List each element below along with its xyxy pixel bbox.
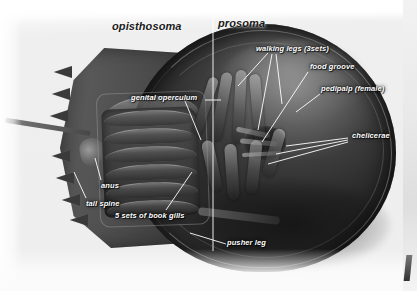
label-genital-operculum: genital operculum [131,93,197,102]
label-chelicerae: chelicerae [352,131,390,140]
label-book-gills: 5 sets of book gills [115,211,185,220]
label-pusher-leg: pusher leg [227,238,266,247]
label-prosoma: prosoma [218,17,265,29]
annotation-layer: opisthosoma prosoma walking legs (3sets)… [0,0,417,291]
leader-lines [0,0,417,291]
label-tail-spine: tail spine [86,199,120,208]
label-opisthosoma: opisthosoma [112,20,182,32]
label-walking-legs: walking legs (3sets) [256,44,329,53]
anatomy-figure: opisthosoma prosoma walking legs (3sets)… [0,0,417,291]
label-anus: anus [101,181,119,190]
label-food-groove: food groove [310,62,354,71]
label-pedipalp: pedipalp (female) [321,84,384,93]
